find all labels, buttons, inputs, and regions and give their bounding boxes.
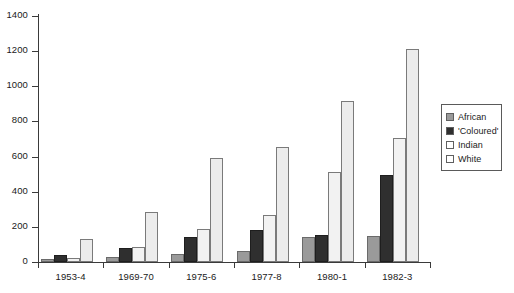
bar: [263, 215, 276, 262]
legend-label: African: [458, 112, 486, 122]
legend-swatch-icon: [446, 127, 454, 135]
bar: [380, 175, 393, 262]
x-axis-label: 1969-70: [103, 271, 168, 282]
x-axis-tick-mark: [169, 262, 170, 268]
chart-container: 0200400600800100012001400 1953-41969-701…: [0, 0, 514, 293]
x-axis-label: 1953-4: [38, 271, 103, 282]
bar-group: [106, 16, 158, 262]
bar: [393, 138, 406, 262]
bar: [250, 230, 263, 263]
plot-area: [38, 16, 430, 262]
bar: [80, 239, 93, 262]
bar-group: [237, 16, 289, 262]
bar: [315, 235, 328, 262]
bar: [210, 158, 223, 262]
bar: [276, 147, 289, 262]
chart-legend: African'Coloured'IndianWhite: [441, 104, 502, 171]
legend-item: Indian: [446, 138, 497, 151]
bar: [145, 212, 158, 262]
bar: [67, 258, 80, 262]
x-axis-label: 1980-1: [299, 271, 364, 282]
bar: [54, 255, 67, 262]
x-axis-label: 1977-8: [234, 271, 299, 282]
y-axis-tick-label: 600: [12, 150, 28, 161]
legend-item: African: [446, 110, 497, 123]
y-axis-tick-label: 800: [12, 114, 28, 125]
bar: [41, 259, 54, 263]
bar: [341, 101, 354, 262]
legend-swatch-icon: [446, 141, 454, 149]
y-axis-tick-label: 1200: [6, 44, 28, 55]
bar: [132, 247, 145, 262]
y-axis-tick-label: 200: [12, 220, 28, 231]
legend-label: 'Coloured': [458, 126, 498, 136]
bar-group: [41, 16, 93, 262]
x-axis-tick-mark: [430, 262, 431, 268]
y-axis-tick-label: 1000: [6, 79, 28, 90]
bar: [237, 251, 250, 262]
bar: [106, 257, 119, 262]
bar: [406, 49, 419, 262]
x-axis-tick-mark: [38, 262, 39, 268]
x-axis-tick-mark: [234, 262, 235, 268]
y-axis-tick-label: 400: [12, 185, 28, 196]
bar: [184, 237, 197, 262]
legend-swatch-icon: [446, 155, 454, 163]
x-axis-label: 1975-6: [169, 271, 234, 282]
legend-item: 'Coloured': [446, 124, 497, 137]
x-axis-label: 1982-3: [365, 271, 430, 282]
x-axis-tick-mark: [299, 262, 300, 268]
bar: [119, 248, 132, 262]
bar: [367, 236, 380, 262]
bar: [171, 254, 184, 262]
bar-group: [302, 16, 354, 262]
x-axis-tick-mark: [103, 262, 104, 268]
legend-label: White: [458, 154, 481, 164]
bar-group: [367, 16, 419, 262]
y-axis-tick-label: 1400: [6, 9, 28, 20]
bar: [328, 172, 341, 262]
legend-item: White: [446, 152, 497, 165]
legend-label: Indian: [458, 140, 483, 150]
y-axis-tick-label: 0: [23, 255, 28, 266]
x-axis-tick-mark: [365, 262, 366, 268]
bar: [302, 237, 315, 262]
legend-swatch-icon: [446, 113, 454, 121]
bar: [197, 229, 210, 262]
bar-group: [171, 16, 223, 262]
